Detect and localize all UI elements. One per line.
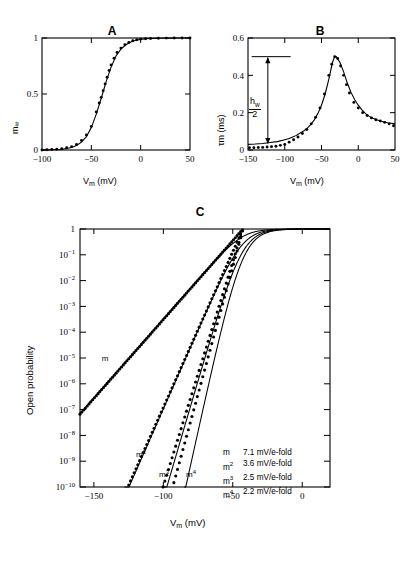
legend-symbol: m3 <box>221 473 243 487</box>
svg-text:−50: −50 <box>84 154 99 164</box>
legend-row: m2 3.6 mV/e-fold <box>221 459 292 473</box>
panel-b-ylabel: τm (ms) <box>216 114 226 146</box>
panel-c-legend: m 7.1 mV/e-fold m2 3.6 mV/e-fold m3 2.5 … <box>221 448 292 501</box>
panel-c-ylabel: Open probability <box>24 346 35 415</box>
svg-text:50: 50 <box>186 154 196 164</box>
svg-text:m3: m3 <box>159 469 170 479</box>
svg-text:0: 0 <box>240 145 245 155</box>
panel-b: B τm (ms) −150−100−5005000.20.40.6 hw 2 … <box>204 24 409 202</box>
legend-row: m3 2.5 mV/e-fold <box>221 473 292 487</box>
svg-text:−100: −100 <box>154 491 173 501</box>
svg-text:1: 1 <box>71 224 76 234</box>
panel-b-xlabel: Vm (mV) <box>290 176 324 187</box>
panel-a-letter: A <box>100 24 124 38</box>
svg-text:0: 0 <box>300 491 305 501</box>
panel-a: A m∞ −100−5005000.51 Vm (mV) <box>0 24 205 202</box>
panel-b-plot: −150−100−5005000.20.40.6 <box>204 24 409 184</box>
annotation-denominator: 2 <box>249 110 261 119</box>
legend-row: m4 2.2 mV/e-fold <box>221 487 292 501</box>
legend-symbol: m <box>221 448 243 459</box>
legend-value: 2.2 mV/e-fold <box>243 487 292 501</box>
figure-root: A m∞ −100−5005000.51 Vm (mV) B τm (ms) −… <box>0 0 409 563</box>
svg-text:−150: −150 <box>85 491 104 501</box>
svg-text:m: m <box>102 354 109 363</box>
svg-text:10−5: 10−5 <box>59 352 76 364</box>
legend-value: 2.5 mV/e-fold <box>243 473 292 487</box>
svg-text:0.5: 0.5 <box>27 89 39 99</box>
svg-text:0: 0 <box>138 154 143 164</box>
svg-text:−100: −100 <box>33 154 52 164</box>
svg-text:0: 0 <box>356 154 361 164</box>
panel-c-plot: −150−100−500110−110−210−310−410−510−610−… <box>0 205 409 535</box>
svg-text:0.4: 0.4 <box>233 71 245 81</box>
panel-a-ylabel: m∞ <box>10 122 20 135</box>
panel-b-halfwidth-annotation: hw 2 <box>249 97 261 119</box>
legend-row: m 7.1 mV/e-fold <box>221 448 292 459</box>
legend-symbol: m2 <box>221 459 243 473</box>
svg-text:10−8: 10−8 <box>59 429 76 441</box>
svg-text:10−7: 10−7 <box>59 403 76 415</box>
svg-text:10−9: 10−9 <box>59 455 76 467</box>
panel-c-letter: C <box>188 205 212 219</box>
panel-a-plot: −100−5005000.51 <box>0 24 205 184</box>
annotation-numerator: hw <box>249 97 261 110</box>
svg-text:1: 1 <box>34 33 39 43</box>
svg-text:0.2: 0.2 <box>233 108 244 118</box>
svg-text:−100: −100 <box>275 154 294 164</box>
svg-text:−150: −150 <box>239 154 258 164</box>
svg-text:50: 50 <box>391 154 401 164</box>
svg-text:m2: m2 <box>136 449 147 459</box>
svg-text:m4: m4 <box>186 469 197 479</box>
svg-text:0.6: 0.6 <box>233 33 245 43</box>
svg-text:10−2: 10−2 <box>59 274 75 286</box>
svg-text:−50: −50 <box>314 154 329 164</box>
legend-value: 7.1 mV/e-fold <box>243 448 292 459</box>
legend-symbol: m4 <box>221 487 243 501</box>
svg-text:10−10: 10−10 <box>56 481 76 493</box>
panel-c-xlabel: Vm (mV) <box>170 517 205 529</box>
panel-c: C Open probability −150−100−500110−110−2… <box>0 205 409 563</box>
svg-text:0: 0 <box>34 145 39 155</box>
svg-text:10−1: 10−1 <box>59 248 75 260</box>
svg-text:10−3: 10−3 <box>59 300 76 312</box>
panel-a-xlabel: Vm (mV) <box>83 176 117 187</box>
svg-text:10−6: 10−6 <box>59 377 76 389</box>
svg-text:10−4: 10−4 <box>59 326 76 338</box>
legend-value: 3.6 mV/e-fold <box>243 459 292 473</box>
panel-b-letter: B <box>308 24 332 38</box>
